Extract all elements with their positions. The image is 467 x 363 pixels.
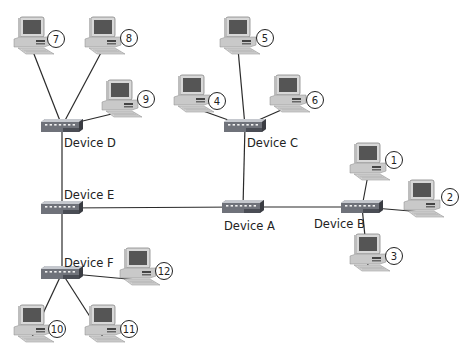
- computer-number: 3: [391, 251, 397, 262]
- computer-6[interactable]: [270, 75, 310, 112]
- computer-7-number-badge: 7: [48, 31, 65, 48]
- computer-11[interactable]: [85, 305, 125, 342]
- link-pc7-D: [32, 49, 62, 126]
- computer-8[interactable]: [85, 17, 125, 54]
- computer-number: 11: [123, 324, 136, 335]
- device-c-hub[interactable]: [224, 119, 266, 132]
- devices-layer: Device ADevice BDevice CDevice DDevice E…: [41, 119, 383, 279]
- device-c-label: Device C: [247, 136, 298, 150]
- network-diagram: Device ADevice BDevice CDevice DDevice E…: [0, 0, 467, 363]
- link-pc5-C: [238, 49, 245, 126]
- computer-1[interactable]: [350, 143, 390, 180]
- device-f-label: Device F: [64, 256, 114, 270]
- computer-number: 1: [391, 155, 397, 166]
- device-b-label: Device B: [314, 217, 365, 231]
- computer-3-number-badge: 3: [386, 248, 403, 265]
- link-E-A: [62, 207, 243, 208]
- device-e-label: Device E: [64, 188, 114, 202]
- computer-10[interactable]: [14, 305, 54, 342]
- device-a-hub[interactable]: [222, 200, 264, 213]
- computers-layer: 123456789101112: [14, 17, 459, 342]
- computer-3[interactable]: [350, 234, 390, 271]
- computer-4-number-badge: 4: [209, 93, 226, 110]
- computer-2[interactable]: [404, 180, 444, 217]
- computer-2-number-badge: 2: [442, 189, 459, 206]
- computer-number: 4: [214, 96, 220, 107]
- computer-4[interactable]: [174, 75, 214, 112]
- computer-5-number-badge: 5: [257, 30, 274, 47]
- link-pc8-D: [62, 49, 103, 126]
- computer-10-number-badge: 10: [49, 321, 66, 338]
- computer-number: 8: [126, 33, 132, 44]
- link-A-C: [243, 126, 245, 207]
- device-d-hub[interactable]: [41, 119, 83, 132]
- computer-number: 6: [312, 95, 318, 106]
- computer-9[interactable]: [102, 80, 142, 117]
- computer-12-number-badge: 12: [156, 263, 173, 280]
- device-e-hub[interactable]: [41, 201, 83, 214]
- device-d-label: Device D: [64, 136, 116, 150]
- computer-12[interactable]: [120, 248, 160, 285]
- computer-number: 5: [262, 33, 268, 44]
- computer-8-number-badge: 8: [121, 30, 138, 47]
- device-b-hub[interactable]: [341, 200, 383, 213]
- computer-11-number-badge: 11: [121, 321, 138, 338]
- computer-number: 10: [51, 324, 64, 335]
- computer-number: 9: [143, 94, 149, 105]
- computer-number: 12: [158, 266, 171, 277]
- computer-9-number-badge: 9: [138, 91, 155, 108]
- computer-1-number-badge: 1: [386, 152, 403, 169]
- computer-number: 7: [53, 34, 59, 45]
- computer-6-number-badge: 6: [307, 92, 324, 109]
- computer-5[interactable]: [220, 17, 260, 54]
- device-a-label: Device A: [224, 219, 275, 233]
- computer-number: 2: [447, 192, 453, 203]
